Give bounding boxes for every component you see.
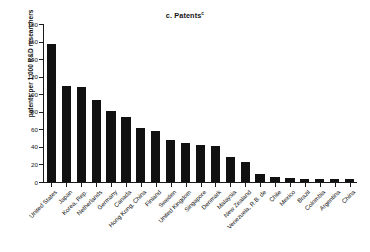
x-axis-tick-label: China — [341, 189, 357, 205]
bar — [315, 179, 324, 183]
bar — [151, 131, 160, 182]
patents-bar-chart: c. Patentsc patents per 1,000 R&D resear… — [0, 0, 370, 252]
y-axis-tick-label: 140 — [16, 56, 38, 63]
x-axis-tick — [51, 183, 52, 187]
x-axis-tick — [290, 183, 291, 187]
x-axis-tick — [141, 183, 142, 187]
x-axis-tick — [126, 183, 127, 187]
x-axis-tick — [275, 183, 276, 187]
y-axis-tick-label: 20 — [16, 161, 38, 168]
y-axis-tick-label: 0 — [16, 179, 38, 186]
bar — [106, 111, 115, 182]
x-axis-tick — [320, 183, 321, 187]
bar — [166, 140, 175, 182]
y-axis-tick-label: 40 — [16, 143, 38, 150]
x-axis-tick — [171, 183, 172, 187]
x-axis-tick — [230, 183, 231, 187]
bar — [121, 117, 130, 182]
x-axis-tick — [201, 183, 202, 187]
bar — [226, 157, 235, 182]
x-axis-tick — [260, 183, 261, 187]
x-axis-tick — [96, 183, 97, 187]
bar — [62, 86, 71, 182]
x-axis-tick — [111, 183, 112, 187]
bar — [255, 174, 264, 182]
y-axis-tick-label: 80 — [16, 108, 38, 115]
x-axis-tick — [215, 183, 216, 187]
bar — [345, 179, 354, 183]
chart-title-footnote-marker: c — [201, 11, 204, 16]
x-axis-tick — [350, 183, 351, 187]
y-axis-tick-label: 60 — [16, 126, 38, 133]
x-axis-tick — [305, 183, 306, 187]
y-axis-tick-label: 120 — [16, 73, 38, 80]
x-axis-tick — [156, 183, 157, 187]
bar — [241, 162, 250, 182]
bar — [300, 179, 309, 183]
bar — [270, 177, 279, 182]
x-axis-tick — [186, 183, 187, 187]
bar — [77, 87, 86, 182]
bar — [211, 146, 220, 182]
bar — [330, 179, 339, 183]
y-axis-tick-label: 100 — [16, 91, 38, 98]
chart-title-text: c. Patents — [166, 11, 201, 20]
x-axis-tick — [245, 183, 246, 187]
y-axis-tick — [39, 182, 44, 183]
plot-area — [44, 24, 357, 182]
x-axis-tick — [81, 183, 82, 187]
y-axis-tick-label: 180 — [16, 21, 38, 28]
x-axis-tick — [66, 183, 67, 187]
bar — [285, 178, 294, 182]
x-axis-tick — [335, 183, 336, 187]
bar — [47, 44, 56, 182]
chart-title: c. Patentsc — [0, 11, 370, 20]
bar — [92, 100, 101, 182]
x-axis-tick-label: United States — [28, 189, 58, 219]
bar — [181, 143, 190, 183]
bar — [136, 128, 145, 182]
bar — [196, 145, 205, 182]
y-axis-tick-label: 160 — [16, 38, 38, 45]
